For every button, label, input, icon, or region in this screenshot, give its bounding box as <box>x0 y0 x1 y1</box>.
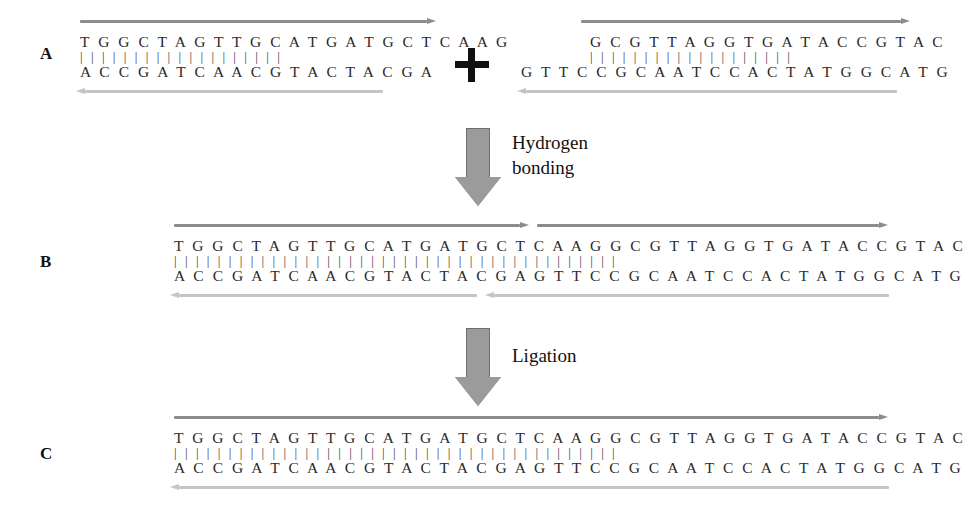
arrow-head-right <box>879 222 888 228</box>
panel-label-a: A <box>40 44 52 64</box>
arrow-head-right <box>879 414 888 420</box>
arrow-shaft <box>537 224 879 227</box>
bottom-strand-arrow-c <box>170 484 889 491</box>
bottom-strand-sequence-b: A C C G A T C A A C G T A C T A C G A G … <box>174 268 965 284</box>
panel-a-left-fragment: T G G C T A G T T G C A T G A T G C T C … <box>80 34 510 80</box>
panel-a-right-fragment: G C G T T A G G T G A T A C C G T A C | … <box>521 34 950 80</box>
arrow-head-right <box>427 18 436 24</box>
hydrogen-bond-ticks-a-right: | | | | | | | | | | | | | | | | | | | <box>590 51 950 63</box>
arrow-tip <box>455 177 501 206</box>
bottom-strand-sequence-a-right: G T T C C G C A A T C C A C T A T G G C … <box>521 64 950 80</box>
bottom-strand-arrow-b-right <box>485 292 889 299</box>
bottom-strand-sequence-a-left: A C C G A T C A A C G T A C T A C G A <box>80 64 510 80</box>
process-arrow-ligation <box>455 328 501 406</box>
top-strand-arrow-b-right <box>537 222 888 229</box>
top-strand-arrow-a-left <box>80 18 436 25</box>
process-label-ligation: Ligation <box>512 343 576 368</box>
arrow-shaft <box>581 20 901 23</box>
top-strand-sequence-c: T G G C T A G T T G C A T G A T G C T C … <box>174 430 965 446</box>
hydrogen-bond-ticks-a-left: | | | | | | | | | | | | | | | | | | | <box>80 51 510 63</box>
arrow-shaft <box>494 294 889 297</box>
panel-label-b: B <box>40 252 51 272</box>
bottom-strand-arrow-a-left <box>76 88 383 95</box>
top-strand-sequence-b: T G G C T A G T T G C A T G A T G C T C … <box>174 238 965 254</box>
arrow-shaft <box>85 90 383 93</box>
top-strand-sequence-a-left: T G G C T A G T T G C A T G A T G C T C … <box>80 34 510 50</box>
arrow-shaft <box>526 90 897 93</box>
arrow-shaft <box>179 486 889 489</box>
top-strand-arrow-b-left <box>174 222 529 229</box>
hydrogen-bond-ticks-b: | | | | | | | | | | | | | | | | | | | | … <box>174 255 965 267</box>
bottom-strand-arrow-a-right <box>517 88 897 95</box>
arrow-shaft <box>174 416 879 419</box>
process-label-hydrogen-bonding: Hydrogen bonding <box>512 130 588 180</box>
arrow-shaft <box>80 20 427 23</box>
bottom-strand-arrow-b-left <box>170 292 477 299</box>
arrow-tip <box>455 377 501 406</box>
panel-c-duplex: T G G C T A G T T G C A T G A T G C T C … <box>174 430 965 476</box>
top-strand-arrow-a-right <box>581 18 910 25</box>
arrow-head-left <box>170 292 179 298</box>
plus-sign <box>455 48 489 82</box>
top-strand-sequence-a-right: G C G T T A G G T G A T A C C G T A C <box>590 34 950 50</box>
process-arrow-hydrogen-bonding <box>455 128 501 206</box>
arrow-stem <box>466 128 490 178</box>
hydrogen-bond-ticks-c: | | | | | | | | | | | | | | | | | | | | … <box>174 447 965 459</box>
arrow-head-left <box>170 484 179 490</box>
arrow-shaft <box>174 224 520 227</box>
arrow-head-left <box>485 292 494 298</box>
top-strand-arrow-c <box>174 414 888 421</box>
panel-b-duplex: T G G C T A G T T G C A T G A T G C T C … <box>174 238 965 284</box>
bottom-strand-sequence-c: A C C G A T C A A C G T A C T A C G A G … <box>174 460 965 476</box>
arrow-shaft <box>179 294 477 297</box>
panel-label-c: C <box>40 444 52 464</box>
arrow-head-right <box>901 18 910 24</box>
arrow-head-left <box>517 88 526 94</box>
arrow-head-left <box>76 88 85 94</box>
arrow-stem <box>466 328 490 378</box>
arrow-head-right <box>520 222 529 228</box>
